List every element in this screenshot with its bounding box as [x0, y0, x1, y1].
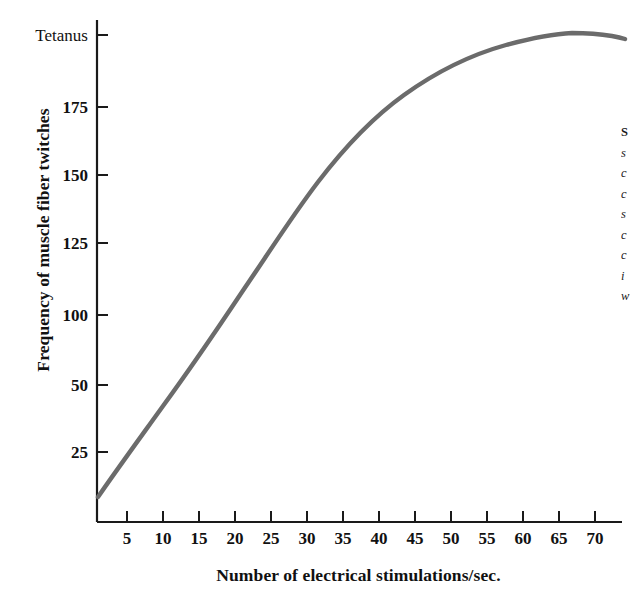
- x-tick-label-25: 25: [251, 530, 291, 547]
- figure-container: Tetanus 175 150 125 100 50 25 5 10 15 20…: [0, 0, 634, 608]
- caption-line: i: [621, 266, 634, 287]
- x-tick-label-40: 40: [359, 530, 399, 547]
- caption-line: c: [621, 245, 634, 266]
- y-axis-title: Frequency of muscle fiber twitches: [30, 20, 56, 460]
- chart-plot-area: [0, 0, 634, 608]
- x-axis-title: Number of electrical stimulations/sec.: [97, 565, 620, 586]
- x-axis-ticks: [127, 511, 595, 522]
- x-tick-label-5: 5: [107, 530, 147, 547]
- x-tick-label-35: 35: [323, 530, 363, 547]
- caption-line: c: [621, 225, 634, 246]
- caption-line: w: [621, 286, 634, 307]
- x-tick-label-70: 70: [575, 530, 615, 547]
- x-tick-label-15: 15: [179, 530, 219, 547]
- caption-line: s: [621, 143, 634, 164]
- data-series-curve: [98, 33, 625, 497]
- x-tick-label-20: 20: [215, 530, 255, 547]
- side-caption-clipped: S s c c s c c i w: [621, 122, 634, 307]
- x-tick-label-60: 60: [503, 530, 543, 547]
- y-axis-ticks: [97, 35, 108, 452]
- x-tick-label-55: 55: [467, 530, 507, 547]
- caption-line: s: [621, 204, 634, 225]
- x-tick-label-45: 45: [395, 530, 435, 547]
- x-tick-label-30: 30: [287, 530, 327, 547]
- caption-line: S: [621, 122, 634, 143]
- x-tick-label-50: 50: [431, 530, 471, 547]
- caption-line: c: [621, 184, 634, 205]
- x-tick-label-65: 65: [539, 530, 579, 547]
- caption-line: c: [621, 163, 634, 184]
- x-tick-label-10: 10: [143, 530, 183, 547]
